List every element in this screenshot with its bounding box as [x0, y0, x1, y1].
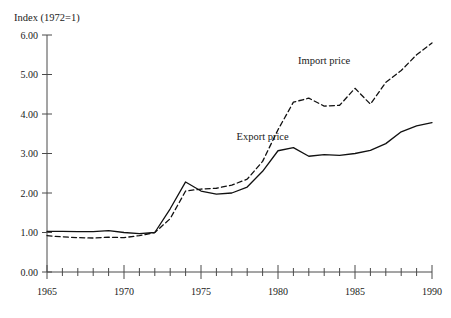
y-tick-label: 4.00: [21, 109, 39, 120]
chart-figure: Index (1972=1) 0.001.002.003.004.005.006…: [0, 0, 451, 318]
x-tick-label: 1980: [268, 286, 288, 297]
y-tick-label: 1.00: [21, 227, 39, 238]
y-tick-label: 6.00: [21, 30, 39, 41]
series-label-group: Import priceExport price: [237, 55, 351, 143]
x-tick-label: 1970: [114, 286, 134, 297]
y-axis-title: Index (1972=1): [14, 12, 80, 24]
series-annotation-export-price: Export price: [237, 131, 290, 142]
chart-axis-title-group: Index (1972=1): [14, 12, 80, 24]
x-tick-label: 1965: [37, 286, 57, 297]
axes-group: [47, 35, 432, 272]
x-tick-group: 196519701975198019851990: [37, 265, 442, 297]
y-tick-label: 5.00: [21, 69, 39, 80]
series-annotation-import-price: Import price: [298, 55, 351, 66]
y-tick-label: 3.00: [21, 148, 39, 159]
x-tick-label: 1990: [422, 286, 442, 297]
y-tick-label: 2.00: [21, 188, 39, 199]
index-line-chart: Index (1972=1) 0.001.002.003.004.005.006…: [0, 0, 451, 318]
x-tick-label: 1985: [345, 286, 365, 297]
y-tick-label: 0.00: [21, 267, 39, 278]
x-tick-label: 1975: [191, 286, 211, 297]
